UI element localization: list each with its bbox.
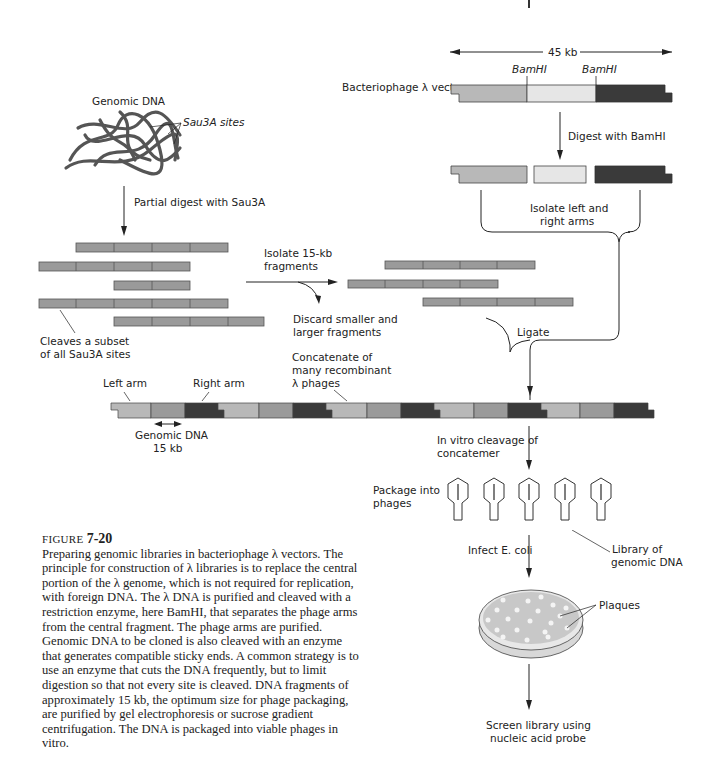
genomic-dna-tangle	[66, 112, 180, 174]
phage-icon	[519, 478, 539, 520]
caption-text: Preparing genomic libraries in bacteriop…	[42, 547, 362, 751]
left-arm-label: Left arm	[103, 377, 147, 389]
isolate-15kb-label-1: Isolate 15-kb	[264, 247, 332, 259]
library-label-1: Library of	[612, 543, 662, 555]
vector-size-dimension: 45 kb	[450, 46, 672, 58]
figure-label: FIGURE	[42, 533, 84, 545]
concatenate-label-3: λ phages	[292, 377, 340, 389]
separated-vector-pieces	[451, 166, 672, 183]
insert-size-label: 15 kb	[153, 442, 183, 454]
vector-size-label: 45 kb	[548, 46, 578, 58]
infect-label: Infect E. coli	[468, 544, 532, 556]
concatenate-label-1: Concatenate of	[292, 351, 373, 363]
concatemer	[111, 403, 654, 418]
genomic-fragments	[39, 243, 264, 326]
size-selected-fragments	[348, 261, 573, 306]
cleaves-label-2: of all Sau3A sites	[40, 348, 130, 360]
library-label-2: genomic DNA	[611, 556, 683, 568]
screen-label-2: nucleic acid probe	[490, 732, 586, 744]
figure-caption: FIGURE 7-20 Preparing genomic libraries …	[42, 532, 362, 751]
package-label-1: Package into	[373, 484, 440, 496]
lambda-vector	[451, 76, 672, 102]
isolate-arms-label-2: right arms	[540, 215, 594, 227]
sau3a-sites-label: Sau3A sites	[183, 116, 245, 128]
in-vitro-label-1: In vitro cleavage of	[437, 434, 538, 446]
phage-icon	[484, 478, 504, 520]
phage-icon	[448, 478, 468, 520]
phage-icon	[555, 478, 575, 520]
partial-digest-label: Partial digest with Sau3A	[134, 196, 266, 208]
screen-label-1: Screen library using	[486, 719, 591, 731]
package-label-2: phages	[373, 497, 411, 509]
phage-icon	[591, 478, 611, 520]
vector-label: Bacteriophage λ vector	[342, 81, 465, 93]
genomic-insert-label: Genomic DNA	[135, 429, 209, 441]
isolate-arms-label-1: Isolate left and	[530, 202, 608, 214]
isolate-15kb-label-2: fragments	[264, 260, 318, 272]
bamhi-label-2: BamHI	[582, 63, 617, 75]
ligate-label: Ligate	[517, 326, 549, 338]
in-vitro-label-2: concatemer	[437, 447, 500, 459]
discard-label-2: larger fragments	[293, 326, 381, 338]
genomic-dna-label: Genomic DNA	[92, 95, 166, 107]
concatenate-label-2: many recombinant	[292, 364, 391, 376]
bamhi-label-1: BamHI	[512, 63, 547, 75]
plaques-label: Plaques	[599, 599, 640, 611]
cleaves-label-1: Cleaves a subset	[40, 335, 129, 347]
phage-particles	[448, 478, 611, 520]
figure-number: 7-20	[87, 531, 113, 546]
petri-plate	[479, 590, 583, 658]
figure-diagram: 45 kb BamHI BamHI Bacteriophage λ vector…	[0, 0, 706, 530]
right-arm-label: Right arm	[193, 377, 245, 389]
discard-label-1: Discard smaller and	[293, 313, 398, 325]
digest-label: Digest with BamHI	[568, 130, 666, 142]
